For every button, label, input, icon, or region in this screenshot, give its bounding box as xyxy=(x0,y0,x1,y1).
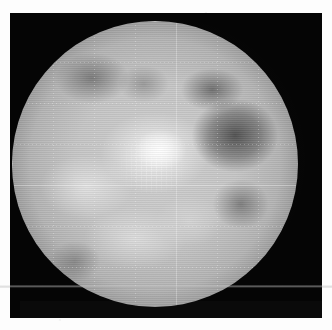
planetary-disk xyxy=(12,21,298,307)
image-panel xyxy=(10,13,322,318)
speckled-limb-ring-inner xyxy=(11,20,299,308)
figure-page xyxy=(0,0,332,330)
